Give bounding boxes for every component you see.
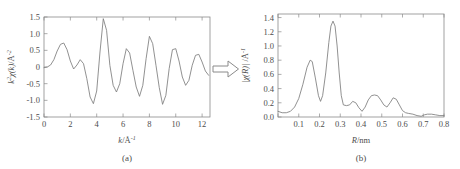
x-tick-label-a: 10 bbox=[171, 119, 180, 129]
y-tick-label-b: 1.0 bbox=[263, 41, 274, 51]
y-tick-label-b: 0.8 bbox=[263, 55, 274, 65]
figure-container: 024681012-1.5-1.0-0.500.51.01.5k/Å-1k2χ(… bbox=[0, 0, 460, 169]
plot-a-svg: 024681012-1.5-1.0-0.500.51.01.5k/Å-1k2χ(… bbox=[0, 0, 215, 169]
x-tick-label-a: 2 bbox=[68, 119, 72, 129]
x-axis-label-a: k/Å-1 bbox=[118, 135, 135, 145]
x-tick-label-b: 0.8 bbox=[439, 119, 450, 129]
x-tick-label-a: 12 bbox=[198, 119, 207, 129]
y-tick-label-a: 0 bbox=[36, 62, 40, 72]
panel-a-kspace: 024681012-1.5-1.0-0.500.51.01.5k/Å-1k2χ(… bbox=[0, 0, 215, 169]
y-tick-label-b: 0.2 bbox=[263, 98, 274, 108]
y-tick-label-b: 0.6 bbox=[263, 69, 274, 79]
curve-b-ftmag bbox=[278, 21, 444, 116]
y-tick-label-b: 0.4 bbox=[263, 84, 274, 94]
plot-b-frame bbox=[278, 14, 444, 117]
y-tick-label-a: 0.5 bbox=[29, 45, 40, 55]
y-tick-label-a: -0.5 bbox=[27, 79, 40, 89]
y-axis-label-a: k2χ(k)/Å-2 bbox=[6, 50, 16, 83]
y-tick-label-a: 1.5 bbox=[29, 12, 40, 22]
x-tick-label-b: 0.3 bbox=[335, 119, 346, 129]
x-tick-label-b: 0.2 bbox=[314, 119, 325, 129]
x-tick-label-b: 0.1 bbox=[293, 119, 304, 129]
y-tick-label-a: 1.0 bbox=[29, 29, 40, 39]
x-tick-label-b: 0.5 bbox=[376, 119, 387, 129]
y-tick-label-a: -1.5 bbox=[27, 112, 40, 122]
x-tick-label-b: 0.4 bbox=[356, 119, 367, 129]
x-tick-label-a: 6 bbox=[121, 119, 125, 129]
x-tick-label-a: 0 bbox=[42, 119, 46, 129]
y-axis-label-b: |χ(R)| /Å-1 bbox=[240, 48, 250, 83]
x-tick-label-a: 4 bbox=[95, 119, 100, 129]
panel-b-caption: (b) bbox=[356, 153, 367, 163]
plot-b-svg: 0.10.20.30.40.50.60.70.80.00.20.40.60.81… bbox=[236, 0, 460, 169]
curve-a-kchi bbox=[44, 19, 209, 105]
y-tick-label-b: 1.4 bbox=[263, 13, 274, 23]
x-tick-label-b: 0.6 bbox=[397, 119, 408, 129]
x-tick-label-b: 0.7 bbox=[418, 119, 429, 129]
y-tick-label-b: 1.2 bbox=[263, 27, 274, 37]
panel-b-rspace: 0.10.20.30.40.50.60.70.80.00.20.40.60.81… bbox=[236, 0, 460, 169]
plot-a-frame bbox=[44, 17, 210, 117]
x-tick-label-a: 8 bbox=[147, 119, 151, 129]
y-tick-label-a: -1.0 bbox=[27, 95, 40, 105]
y-tick-label-b: 0.0 bbox=[263, 112, 274, 122]
panel-a-caption: (a) bbox=[122, 153, 132, 163]
x-axis-label-b: R/nm bbox=[351, 135, 371, 145]
